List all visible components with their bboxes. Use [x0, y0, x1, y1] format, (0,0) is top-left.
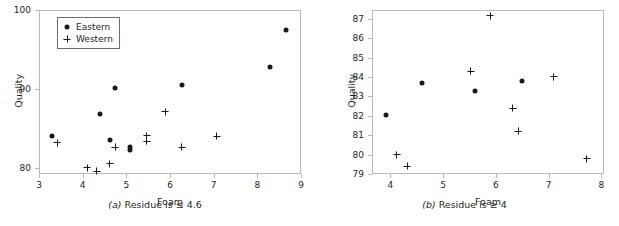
legend-a: Eastern Western [57, 17, 120, 49]
x-axis-tick [443, 174, 444, 178]
caption-b-text: Residue is ≥ 4 [439, 199, 507, 210]
x-axis-tick [83, 174, 84, 178]
figure-two-panel-scatter: Quality Foam (a) Residue is ≤ 4.6 Easter… [0, 0, 619, 226]
legend-item-eastern-a: Eastern [62, 21, 113, 33]
panel-b: Quality Foam (b) Residue is ≥ 4 Eastern … [310, 0, 619, 226]
y-axis-tick [368, 96, 372, 97]
y-axis-tick-label: 90 [20, 84, 31, 93]
y-axis-tick-label: 83 [353, 92, 364, 101]
data-point-dot [107, 138, 112, 143]
dot-marker-icon [62, 22, 72, 32]
x-axis-tick-label: 8 [598, 181, 604, 190]
data-point-plus [213, 133, 220, 140]
data-point-dot [520, 78, 525, 83]
y-axis-tick-label: 87 [353, 14, 364, 23]
data-point-dot [49, 133, 54, 138]
caption-b: (b) Residue is ≥ 4 [310, 200, 619, 210]
data-point-plus [106, 160, 113, 167]
y-axis-tick-label: 80 [20, 163, 31, 172]
data-point-dot [420, 80, 425, 85]
y-axis-tick [368, 19, 372, 20]
plus-marker-icon [62, 34, 72, 44]
y-axis-tick [368, 116, 372, 117]
data-point-plus [583, 155, 590, 162]
x-axis-tick [170, 174, 171, 178]
y-axis-tick [368, 174, 372, 175]
data-point-plus [393, 151, 400, 158]
x-axis-tick-label: 9 [298, 181, 304, 190]
y-axis-tick [35, 168, 39, 169]
x-axis-tick [39, 174, 40, 178]
y-axis-tick-label: 100 [14, 6, 31, 15]
x-axis-tick-label: 6 [167, 181, 173, 190]
data-point-dot [113, 86, 118, 91]
y-axis-tick [368, 135, 372, 136]
x-axis-tick-label: 5 [123, 181, 129, 190]
legend-label-eastern-a: Eastern [76, 23, 110, 32]
plot-area-b [372, 10, 604, 174]
y-axis-tick [368, 77, 372, 78]
caption-a-prefix: (a) [108, 199, 121, 210]
caption-a: (a) Residue is ≤ 4.6 [0, 200, 310, 210]
data-point-dot [384, 112, 389, 117]
x-axis-tick [301, 174, 302, 178]
y-axis-tick [35, 89, 39, 90]
data-point-plus [509, 105, 516, 112]
data-point-dot [179, 83, 184, 88]
data-point-plus [515, 128, 522, 135]
x-axis-tick-label: 4 [80, 181, 86, 190]
y-axis-tick-label: 82 [353, 111, 364, 120]
x-axis-tick [257, 174, 258, 178]
y-axis-tick [368, 58, 372, 59]
data-point-plus [550, 73, 557, 80]
caption-b-prefix: (b) [422, 199, 435, 210]
data-point-dot [128, 144, 133, 149]
x-axis-tick [126, 174, 127, 178]
data-point-dot [128, 147, 133, 152]
y-axis-tick-label: 80 [353, 150, 364, 159]
y-axis-tick-label: 86 [353, 34, 364, 43]
data-point-plus [84, 164, 91, 171]
data-point-plus [112, 144, 119, 151]
legend-item-western-a: Western [62, 33, 113, 45]
y-axis-tick-label: 81 [353, 131, 364, 140]
data-point-dot [472, 88, 477, 93]
data-point-plus [162, 108, 169, 115]
x-axis-tick-label: 5 [440, 181, 446, 190]
data-point-plus [178, 144, 185, 151]
x-axis-tick [601, 174, 602, 178]
legend-label-western-a: Western [76, 35, 113, 44]
x-axis-tick-label: 3 [36, 181, 42, 190]
x-axis-tick-label: 4 [388, 181, 394, 190]
x-axis-tick-label: 6 [493, 181, 499, 190]
x-axis-tick [496, 174, 497, 178]
y-axis-tick [35, 10, 39, 11]
y-axis-tick [368, 155, 372, 156]
y-axis-tick-label: 79 [353, 170, 364, 179]
data-point-plus [404, 163, 411, 170]
data-point-plus [143, 132, 150, 139]
caption-a-text: Residue is ≤ 4.6 [125, 199, 202, 210]
x-axis-tick-label: 7 [546, 181, 552, 190]
data-point-plus [487, 12, 494, 19]
x-axis-tick [390, 174, 391, 178]
data-point-dot [268, 64, 273, 69]
panel-a: Quality Foam (a) Residue is ≤ 4.6 Easter… [0, 0, 310, 226]
y-axis-tick-label: 84 [353, 72, 364, 81]
x-axis-tick [549, 174, 550, 178]
data-point-plus [467, 68, 474, 75]
x-axis-tick-label: 7 [211, 181, 217, 190]
data-point-dot [97, 111, 102, 116]
data-point-plus [54, 139, 61, 146]
data-point-plus [143, 138, 150, 145]
y-axis-tick [368, 38, 372, 39]
data-point-dot [283, 27, 288, 32]
x-axis-tick-label: 8 [254, 181, 260, 190]
x-axis-tick [214, 174, 215, 178]
y-axis-tick-label: 85 [353, 53, 364, 62]
data-point-plus [93, 168, 100, 175]
